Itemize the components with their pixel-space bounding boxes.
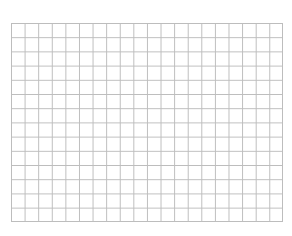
square-grid [11, 23, 283, 222]
